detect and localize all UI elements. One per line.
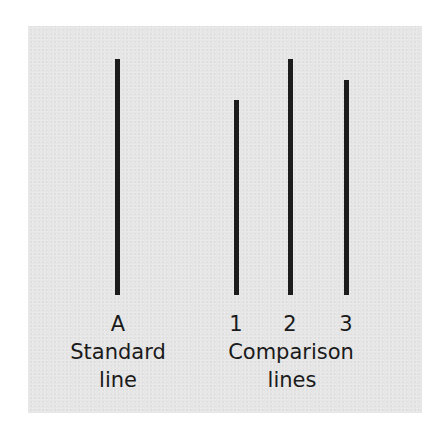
comparison-line-1 — [234, 100, 239, 295]
comparison-line-number-2: 2 — [283, 314, 296, 335]
comparison-line-number-1: 1 — [229, 314, 242, 335]
standard-line-a — [115, 59, 120, 295]
comparison-lines-caption-2: lines — [268, 370, 317, 391]
comparison-line-2 — [288, 59, 293, 295]
standard-line-caption: Standard — [70, 342, 166, 363]
comparison-line-number-3: 3 — [339, 314, 352, 335]
standard-line-caption-2: line — [99, 370, 137, 391]
comparison-lines-caption: Comparison — [228, 342, 354, 363]
comparison-line-3 — [344, 80, 349, 295]
standard-line-letter: A — [111, 314, 125, 335]
